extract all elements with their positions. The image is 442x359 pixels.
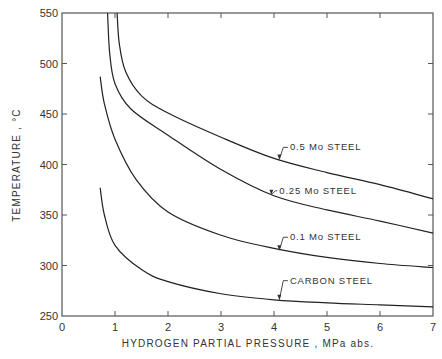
leader-line [279, 237, 288, 250]
y-tick-label: 300 [40, 260, 58, 272]
leader-line [279, 147, 288, 159]
plot-curves [100, 13, 433, 307]
plot-axes: 01234567250300350400450500550 [40, 7, 436, 333]
curve-label: 0.1 Mo STEEL [290, 231, 361, 242]
x-tick-label: 1 [112, 321, 118, 333]
x-axis-title: HYDROGEN PARTIAL PRESSURE , MPa abs. [122, 338, 375, 349]
curve-label: 0.25 Mo STEEL [279, 185, 356, 196]
curve-label: 0.5 Mo STEEL [290, 141, 361, 152]
arrow-head-icon [277, 154, 281, 159]
y-tick-label: 350 [40, 209, 58, 221]
y-tick-label: 550 [40, 7, 58, 19]
y-tick-label: 250 [40, 310, 58, 322]
curve-0-5-mo-steel [117, 13, 433, 199]
y-tick-label: 450 [40, 108, 58, 120]
x-tick-label: 4 [271, 321, 277, 333]
curve-labels: 0.5 Mo STEEL0.25 Mo STEEL0.1 Mo STEELCAR… [269, 141, 373, 299]
curve-label: CARBON STEEL [290, 275, 373, 286]
arrow-head-icon [277, 295, 281, 300]
x-tick-label: 7 [430, 321, 436, 333]
x-tick-label: 2 [165, 321, 171, 333]
leader-line [279, 281, 288, 300]
plot-frame [62, 13, 433, 316]
y-axis-title: TEMPERATURE , °C [11, 108, 22, 222]
x-tick-label: 5 [324, 321, 330, 333]
x-tick-label: 3 [218, 321, 224, 333]
curve-0-25-mo-steel [108, 13, 433, 233]
curve-0-1-mo-steel [100, 77, 433, 268]
x-tick-label: 6 [377, 321, 383, 333]
y-tick-label: 400 [40, 159, 58, 171]
chart-figure: 01234567250300350400450500550 0.5 Mo STE… [0, 0, 442, 359]
y-tick-label: 500 [40, 58, 58, 70]
x-tick-label: 0 [59, 321, 65, 333]
